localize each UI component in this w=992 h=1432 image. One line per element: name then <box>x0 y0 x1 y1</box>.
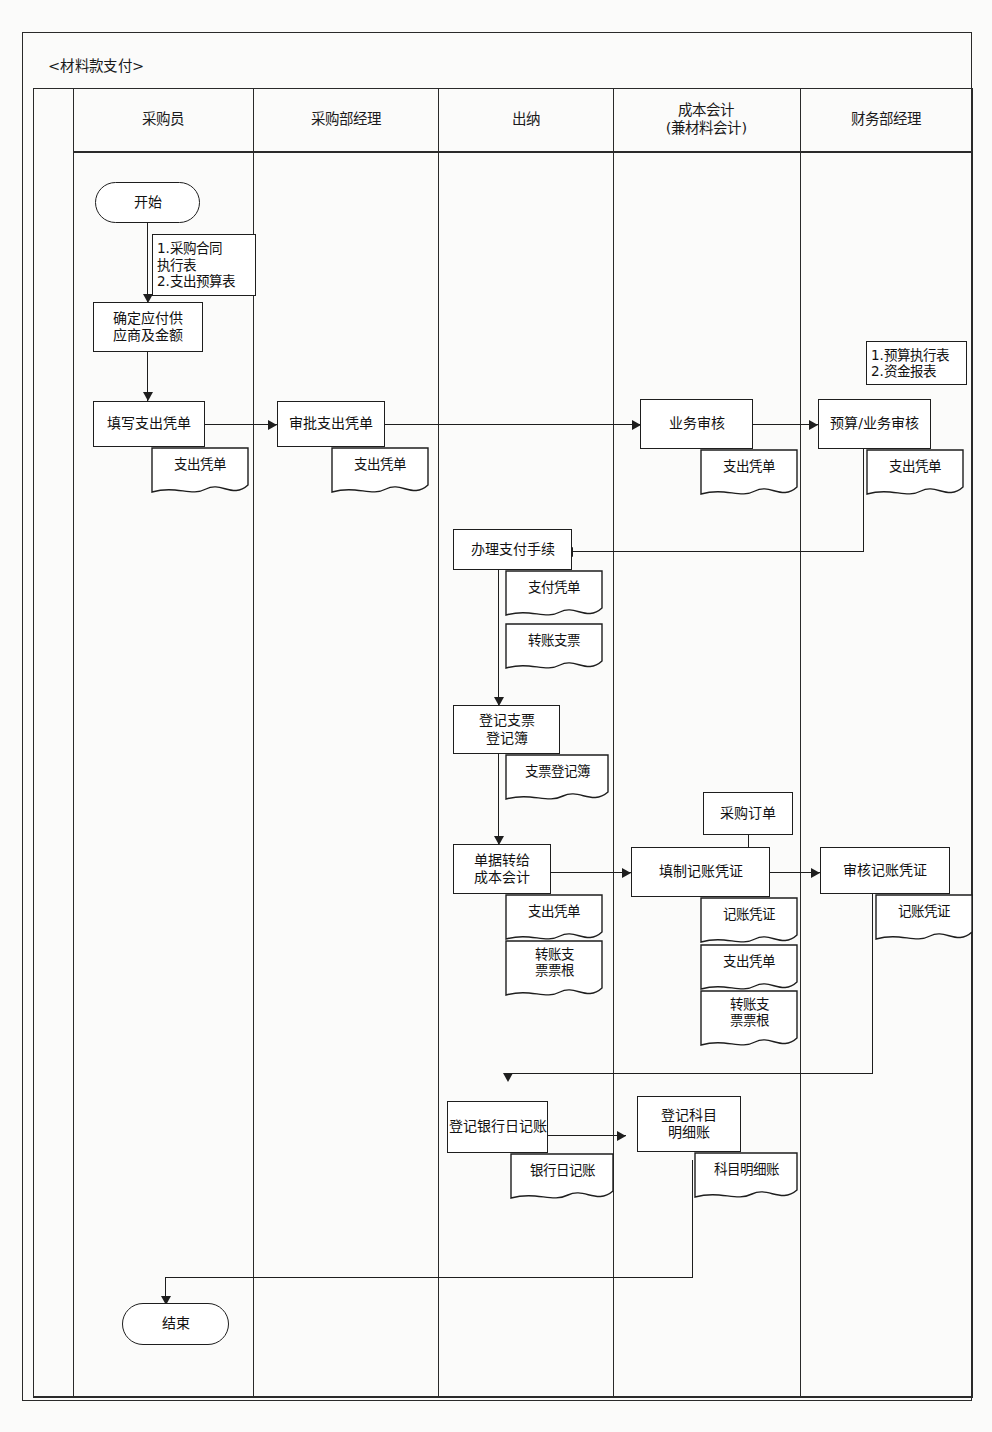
arrow-bank-journal-to-ledger <box>617 1131 626 1141</box>
note-budget-report: 1.预算执行表 2.资金报表 <box>866 341 967 385</box>
lane-header-cashier: 出纳 <box>438 96 613 142</box>
flowchart-canvas: <材料款支付> 采购员 采购部经理 出纳 成本会计 (兼材料会计) 财务部经理 <box>0 0 992 1432</box>
lane-header-cost-accountant: 成本会计 (兼材料会计) <box>613 96 800 142</box>
connector-ledger-to-end <box>165 1277 693 1278</box>
node-budget-business-review[interactable]: 预算/业务审核 <box>818 399 931 449</box>
arrow-fill-to-approve <box>268 420 277 430</box>
node-end[interactable]: 结束 <box>122 1303 229 1345</box>
node-transfer-docs-to-cost-accountant[interactable]: 单据转给 成本会计 <box>453 844 551 894</box>
connector-register-check-to-transfer <box>498 754 499 844</box>
connector-approve-to-business-review <box>385 424 640 425</box>
node-start[interactable]: 开始 <box>95 182 200 223</box>
lane-header-buyer: 采购员 <box>73 96 253 142</box>
arrow-determine-to-fill <box>143 392 153 401</box>
doc-payment-voucher-finance: 支出凭单 <box>866 449 964 501</box>
node-audit-accounting-voucher[interactable]: 审核记账凭证 <box>820 847 950 894</box>
table-header-border <box>73 151 973 153</box>
node-determine-supplier[interactable]: 确定应付供 应商及金额 <box>93 302 203 352</box>
node-prepare-accounting-voucher[interactable]: 填制记账凭证 <box>631 847 770 897</box>
doc-payment-voucher-prepared: 支出凭单 <box>700 944 798 996</box>
doc-payment-voucher-buyer: 支出凭单 <box>151 447 249 499</box>
table-bottom-border <box>33 1396 973 1398</box>
connector-budget-review-to-process-payment <box>572 551 864 552</box>
node-process-payment[interactable]: 办理支付手续 <box>453 529 572 570</box>
lane-divider-1 <box>73 88 74 1398</box>
node-register-check-book[interactable]: 登记支票 登记簿 <box>453 705 560 754</box>
lane-divider-3 <box>438 88 439 1398</box>
node-purchase-order: 采购订单 <box>703 792 793 835</box>
connector-process-to-register-check <box>498 570 499 705</box>
connector-start-to-determine <box>147 222 148 302</box>
doc-transfer-check: 转账支票 <box>505 623 603 675</box>
lane-header-purchasing-manager: 采购部经理 <box>253 96 438 142</box>
lane-divider-0 <box>33 88 34 1398</box>
node-business-review[interactable]: 业务审核 <box>640 399 753 449</box>
doc-payment-voucher-cost: 支出凭单 <box>700 449 798 501</box>
connector-bank-journal-to-ledger <box>548 1135 626 1136</box>
connector-fill-to-approve <box>205 424 277 425</box>
arrow-prepare-to-audit <box>811 868 820 878</box>
node-approve-payment-voucher[interactable]: 审批支出凭单 <box>277 401 385 447</box>
doc-accounting-voucher-audited: 记账凭证 <box>875 894 973 946</box>
node-register-bank-journal[interactable]: 登记银行日记账 <box>447 1101 548 1153</box>
doc-transfer-check-stub-cashier: 转账支 票票根 <box>505 940 603 1002</box>
connector-transfer-to-prepare-voucher <box>551 872 631 873</box>
lane-divider-6 <box>972 88 973 1398</box>
doc-check-register-book: 支票登记簿 <box>505 754 609 806</box>
arrow-business-to-budget-review <box>809 420 818 430</box>
node-fill-payment-voucher[interactable]: 填写支出凭单 <box>93 401 205 447</box>
connector-audit-down <box>872 894 873 1074</box>
doc-subsidiary-ledger: 科目明细账 <box>694 1152 798 1204</box>
connector-audit-to-bank-journal <box>507 1073 873 1074</box>
doc-accounting-voucher-prepared: 记账凭证 <box>700 897 798 949</box>
node-register-subsidiary-ledger[interactable]: 登记科目 明细账 <box>637 1096 741 1152</box>
arrow-transfer-to-prepare-voucher <box>622 868 631 878</box>
arrow-to-bank-journal <box>503 1073 513 1082</box>
doc-payment-voucher-transfer: 支出凭单 <box>505 894 603 946</box>
doc-bank-journal: 银行日记账 <box>510 1153 614 1205</box>
doc-payment-voucher-manager: 支出凭单 <box>331 447 429 499</box>
doc-payment-slip: 支付凭单 <box>505 570 603 622</box>
connector-budget-review-down <box>863 444 864 552</box>
diagram-title: <材料款支付> <box>48 54 144 75</box>
lane-header-finance-manager: 财务部经理 <box>800 96 972 142</box>
note-purchase-contract: 1.采购合同 执行表 2.支出预算表 <box>152 234 256 296</box>
table-top-border <box>33 88 973 89</box>
doc-transfer-check-stub-cost: 转账支 票票根 <box>700 990 798 1052</box>
lane-divider-5 <box>800 88 801 1398</box>
